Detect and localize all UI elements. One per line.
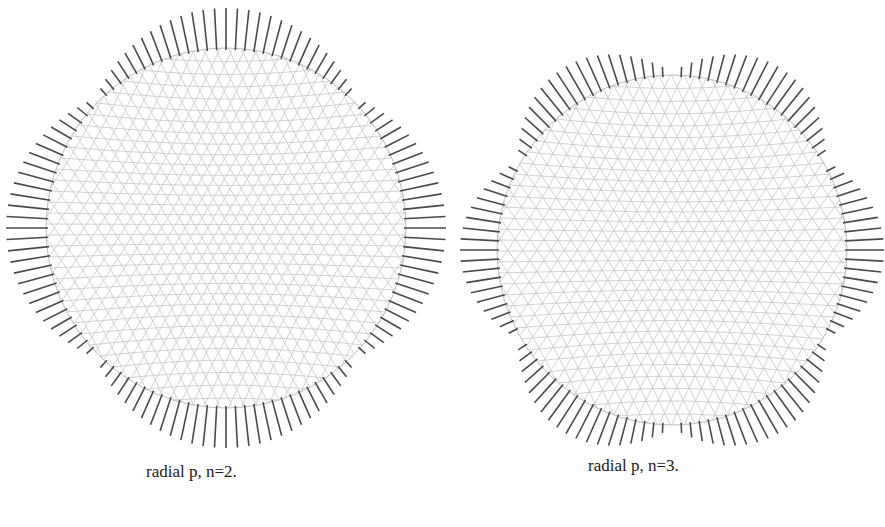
sphere-mesh-n2: [6, 8, 446, 448]
caption-left: radial p, n=2.: [146, 462, 237, 482]
caption-right: radial p, n=3.: [588, 456, 679, 476]
radial-vectors-right: [460, 55, 884, 446]
triangular-mesh-left: [46, 48, 406, 408]
figure-canvas: [0, 0, 885, 527]
sphere-mesh-n3: [460, 55, 884, 446]
